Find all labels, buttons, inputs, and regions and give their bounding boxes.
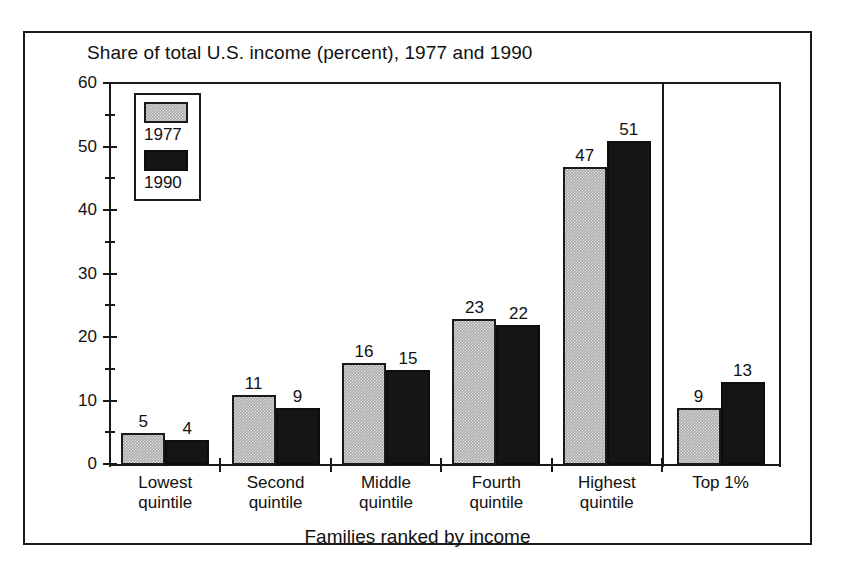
bar-1977-top-1[interactable]: 9 bbox=[677, 408, 721, 465]
bar-1977-highest-quintile[interactable]: 47 bbox=[563, 167, 607, 465]
plot-area: 54119161523224751913 bbox=[110, 83, 780, 465]
bar-1990-highest-quintile[interactable]: 51 bbox=[607, 141, 651, 465]
bar-1990-middle-quintile[interactable]: 15 bbox=[386, 370, 430, 465]
bar-value-label: 22 bbox=[509, 305, 528, 322]
y-axis-tick-label: 10 bbox=[59, 392, 97, 409]
category-label-line: Top 1% bbox=[662, 473, 779, 493]
y-axis-tick-label: 0 bbox=[59, 455, 97, 472]
bar-group: 4751 bbox=[563, 84, 651, 465]
y-axis-tick-label: 40 bbox=[59, 201, 97, 218]
bar-1977-second-quintile[interactable]: 11 bbox=[232, 395, 276, 465]
bar-1977-lowest-quintile[interactable]: 5 bbox=[121, 433, 165, 465]
category-label-lowest-quintile: Lowestquintile bbox=[110, 473, 220, 513]
category-label-highest-quintile: Highestquintile bbox=[552, 473, 662, 513]
bar-group: 1615 bbox=[342, 84, 430, 465]
category-label-line: quintile bbox=[441, 493, 551, 513]
category-label-line: quintile bbox=[220, 493, 330, 513]
category-label-line: Second bbox=[220, 473, 330, 493]
category-label-line: quintile bbox=[110, 493, 220, 513]
bar-1990-top-1[interactable]: 13 bbox=[721, 382, 765, 465]
y-axis-tick-labels: 0102030405060 bbox=[25, 33, 97, 503]
category-label-fourth-quintile: Fourthquintile bbox=[441, 473, 551, 513]
bar-group: 119 bbox=[232, 84, 320, 465]
bar-group: 913 bbox=[677, 84, 765, 465]
bar-value-label: 9 bbox=[293, 388, 302, 405]
bar-value-label: 16 bbox=[355, 343, 374, 360]
category-label-middle-quintile: Middlequintile bbox=[331, 473, 441, 513]
bar-1977-fourth-quintile[interactable]: 23 bbox=[452, 319, 496, 465]
category-label-line: Fourth bbox=[441, 473, 551, 493]
bar-1990-second-quintile[interactable]: 9 bbox=[276, 408, 320, 465]
category-label-line: quintile bbox=[552, 493, 662, 513]
bar-group: 2322 bbox=[452, 84, 540, 465]
y-axis-tick-label: 50 bbox=[59, 138, 97, 155]
x-axis-title: Families ranked by income bbox=[25, 526, 810, 548]
category-label-line: quintile bbox=[331, 493, 441, 513]
category-label-top-1: Top 1% bbox=[662, 473, 779, 493]
y-axis-tick-label: 60 bbox=[59, 74, 97, 91]
category-label-second-quintile: Secondquintile bbox=[220, 473, 330, 513]
bar-1990-fourth-quintile[interactable]: 22 bbox=[496, 325, 540, 465]
bar-value-label: 15 bbox=[399, 350, 418, 367]
bar-value-label: 4 bbox=[182, 420, 191, 437]
chart-title: Share of total U.S. income (percent), 19… bbox=[87, 42, 533, 64]
figure-frame: Share of total U.S. income (percent), 19… bbox=[23, 31, 812, 545]
legend-swatch-1990 bbox=[144, 150, 188, 171]
category-label-line: Middle bbox=[331, 473, 441, 493]
legend-label-1977: 1977 bbox=[144, 124, 191, 145]
bar-value-label: 11 bbox=[245, 375, 263, 392]
bar-value-label: 23 bbox=[465, 299, 484, 316]
legend-label-1990: 1990 bbox=[144, 172, 191, 193]
bar-value-label: 13 bbox=[733, 362, 752, 379]
bar-value-label: 51 bbox=[619, 121, 638, 138]
bar-value-label: 47 bbox=[575, 147, 594, 164]
bar-1990-lowest-quintile[interactable]: 4 bbox=[165, 440, 209, 465]
bar-value-label: 5 bbox=[138, 413, 147, 430]
chart-legend: 1977 1990 bbox=[134, 93, 201, 201]
bar-1977-middle-quintile[interactable]: 16 bbox=[342, 363, 386, 465]
bar-value-label: 9 bbox=[694, 388, 703, 405]
category-label-line: Highest bbox=[552, 473, 662, 493]
legend-swatch-1977 bbox=[144, 102, 188, 123]
y-axis-tick-label: 30 bbox=[59, 265, 97, 282]
y-axis-tick-label: 20 bbox=[59, 328, 97, 345]
category-label-line: Lowest bbox=[110, 473, 220, 493]
